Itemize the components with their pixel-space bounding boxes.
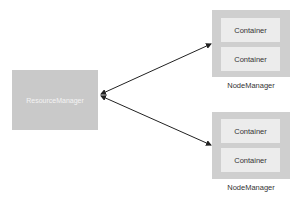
arrow-rm-nm1: [101, 44, 211, 94]
arrow-rm-nm2: [101, 96, 211, 145]
connection-arrows: [0, 0, 299, 205]
